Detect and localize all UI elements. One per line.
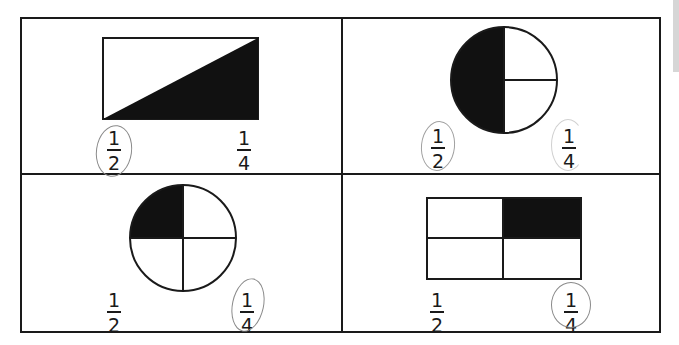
numerator: 1: [426, 290, 448, 310]
problem-3-circle-quarters: [128, 183, 238, 293]
denominator: 2: [426, 315, 448, 335]
page-edge-tab: [673, 0, 679, 72]
denominator: 2: [103, 315, 125, 335]
problem-2-faint-circle: [551, 119, 585, 171]
numerator: 1: [103, 290, 125, 310]
fraction-bar: [237, 149, 251, 151]
problem-4-rectangle-quarters: [426, 197, 583, 281]
problem-1-rectangle-diagonal: [102, 37, 260, 121]
fraction-bar: [107, 311, 121, 313]
problem-3-choice-half[interactable]: 1 2: [103, 290, 125, 335]
problem-4-choice-half[interactable]: 1 2: [426, 290, 448, 335]
fraction-bar: [430, 311, 444, 313]
grid-divider-vertical: [341, 17, 343, 333]
problem-4-answer-circle: [551, 282, 591, 328]
numerator: 1: [233, 128, 255, 148]
problem-1-choice-quarter[interactable]: 1 4: [233, 128, 255, 173]
denominator: 4: [233, 153, 255, 173]
problem-2-circle-half: [449, 25, 559, 135]
